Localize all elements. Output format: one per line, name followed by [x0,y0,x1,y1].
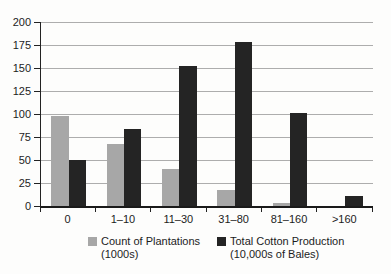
y-tick-label: 100 [0,108,31,121]
y-tick-label: 75 [0,131,31,144]
x-tick-label: 0 [40,213,95,226]
legend-label: Count of Plantations(1000s) [101,235,200,261]
bar-count-of-plantations [162,169,179,206]
bar-total-cotton-production [179,66,196,206]
legend-label-line1: Total Cotton Production [230,235,344,248]
bar-total-cotton-production [69,160,86,206]
bar-total-cotton-production [290,113,307,206]
x-tick-label: 11–30 [151,213,206,226]
gridline [41,45,373,46]
y-axis-tick [34,68,40,69]
bar-count-of-plantations [51,116,68,206]
bar-count-of-plantations [107,144,124,206]
y-axis-tick [34,137,40,138]
bar-count-of-plantations [217,190,234,206]
gridline [41,137,373,138]
legend-item: Total Cotton Production(10,000s of Bales… [217,235,344,261]
grouped-bar-chart: 0255075100125150175200 01–1011–3031–8081… [0,0,391,274]
x-tick-label: 81–160 [261,213,316,226]
bar-total-cotton-production [124,129,141,206]
y-tick-label: 125 [0,85,31,98]
y-axis-tick [34,206,40,207]
bar-total-cotton-production [235,42,252,206]
bar-count-of-plantations [273,203,290,206]
y-axis-tick [34,22,40,23]
x-axis-tick [316,208,317,212]
x-axis-tick [372,208,373,212]
legend-marker-gray [88,237,97,246]
y-axis-tick [34,45,40,46]
legend-label-line1: Count of Plantations [101,235,200,248]
y-tick-label: 0 [0,200,31,213]
gridline [41,114,373,115]
y-tick-label: 50 [0,154,31,167]
legend-label: Total Cotton Production(10,000s of Bales… [230,235,344,261]
y-tick-label: 25 [0,177,31,190]
gridline [41,183,373,184]
y-axis-tick [34,183,40,184]
legend-label-line2: (1000s) [101,248,200,261]
x-axis-tick [95,208,96,212]
gridline [41,68,373,69]
gridline [41,91,373,92]
bar-total-cotton-production [345,196,362,206]
gridline [41,22,373,23]
gridline [41,160,373,161]
legend-marker-black [217,237,226,246]
y-axis-tick [34,160,40,161]
x-axis-tick [40,208,41,212]
legend: Count of Plantations(1000s)Total Cotton … [0,235,391,271]
plot-area [40,22,373,208]
y-tick-label: 175 [0,39,31,52]
x-axis-tick [206,208,207,212]
x-axis-tick [150,208,151,212]
y-tick-label: 150 [0,62,31,75]
y-axis-tick [34,91,40,92]
x-axis-tick [261,208,262,212]
legend-item: Count of Plantations(1000s) [88,235,200,261]
y-tick-label: 200 [0,16,31,29]
legend-label-line2: (10,000s of Bales) [230,248,344,261]
x-tick-label: 1–10 [95,213,150,226]
x-tick-label: 31–80 [206,213,261,226]
y-axis-tick [34,114,40,115]
x-tick-label: >160 [317,213,372,226]
